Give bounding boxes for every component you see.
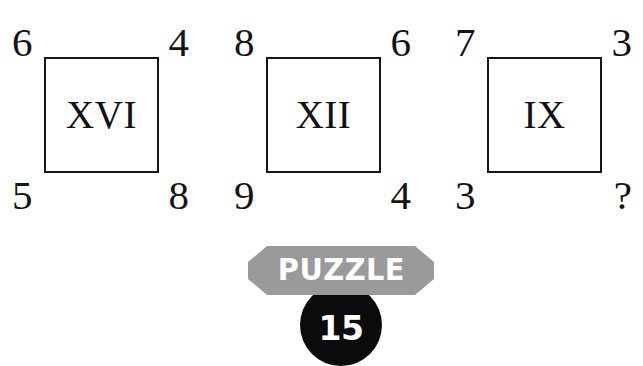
panel-1-top-left-number: 6 [12,22,33,63]
panel-1-top-right-number: 4 [169,22,190,63]
panel-1-roman-numeral: XVI [66,95,137,134]
panel-3-missing-value-question-mark: ? [614,175,632,216]
panel-3-roman-numeral: IX [523,95,565,134]
panel-3-square: IX [487,57,602,173]
panel-2-roman-numeral: XII [296,95,352,134]
panel-2-bottom-right-number: 4 [391,175,412,216]
panel-1-square: XVI [44,57,159,173]
panel-3-top-left-number: 7 [455,22,476,63]
panel-2-top-left-number: 8 [234,22,255,63]
panel-2-bottom-left-number: 9 [234,175,255,216]
panel-1-bottom-right-number: 8 [169,175,190,216]
panel-1-bottom-left-number: 5 [12,175,33,216]
puzzle-badge: 15 PUZZLE [248,244,434,352]
panel-2-top-right-number: 6 [391,22,412,63]
panel-3-top-right-number: 3 [612,22,633,63]
panel-3-bottom-left-number: 3 [455,175,476,216]
puzzle-banner-label: PUZZLE [277,254,404,285]
puzzle-number-label: 15 [300,312,382,345]
puzzle-number-disc: 15 [300,284,382,366]
panel-2-square: XII [266,57,381,173]
puzzle-panel-2: 8 6 XII 9 4 [230,22,415,222]
puzzle-panel-3: 7 3 IX 3 ? [451,22,636,222]
puzzle-banner: PUZZLE [248,246,434,295]
puzzle-panel-1: 6 4 XVI 5 8 [8,22,193,222]
